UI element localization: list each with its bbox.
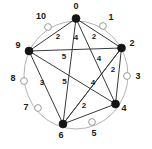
edge-0-9 [29, 19, 76, 52]
node-6[interactable] [59, 120, 67, 128]
node-2-label: 2 [129, 38, 134, 48]
edge-6-4-weight: 2 [82, 101, 87, 110]
node-10-label: 10 [36, 11, 46, 21]
edge-6-2b-weight: 4 [91, 78, 96, 87]
node-8-label: 8 [10, 73, 15, 83]
node-2[interactable] [118, 44, 126, 52]
edge-0-2-weight: 2 [92, 32, 97, 41]
graph-canvas: 2244535224 012345678910 [0, 0, 152, 149]
node-1-label: 1 [108, 12, 113, 22]
circular-graph-diagram: 2244535224 012345678910 [0, 0, 152, 149]
node-4-label: 4 [121, 103, 126, 113]
node-9[interactable] [25, 47, 33, 55]
node-0[interactable] [72, 15, 80, 23]
node-8[interactable] [21, 78, 28, 85]
node-10[interactable] [45, 24, 52, 31]
edge-2-6-weight: 5 [62, 52, 67, 61]
node-1[interactable] [100, 23, 107, 30]
node-3[interactable] [124, 73, 131, 80]
edge-2-4 [116, 48, 122, 104]
node-0-label: 0 [73, 1, 78, 11]
node-7-label: 7 [23, 102, 28, 112]
edge-0-6-weight: 4 [74, 33, 79, 42]
node-3-label: 3 [135, 71, 140, 81]
node-6-label: 6 [58, 130, 63, 140]
edge-9-4-weight: 5 [62, 77, 67, 86]
edge-0-4-weight: 4 [97, 54, 102, 63]
node-4[interactable] [112, 100, 120, 108]
node-5-label: 5 [91, 128, 96, 138]
node-5[interactable] [89, 119, 96, 126]
edge-9-6-weight: 3 [40, 78, 45, 87]
edge-2-4-weight: 2 [111, 65, 116, 74]
edge-0-9-weight: 2 [56, 32, 61, 41]
node-7[interactable] [35, 105, 42, 112]
node-9-label: 9 [15, 40, 20, 50]
edge-9-2 [29, 48, 122, 51]
